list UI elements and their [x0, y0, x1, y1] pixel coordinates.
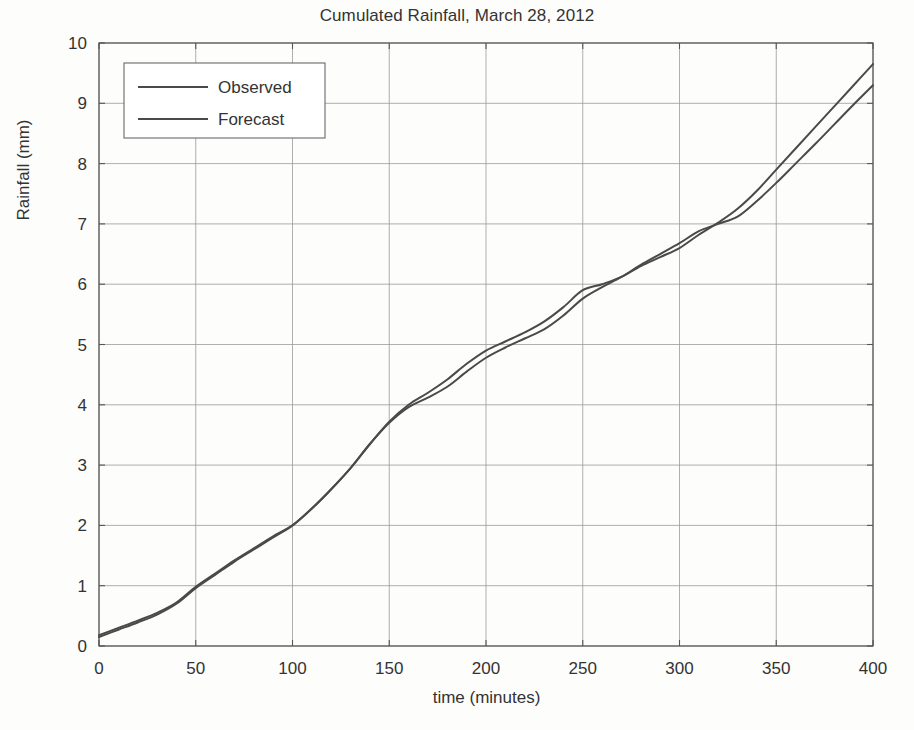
y-tick-label: 7 [78, 215, 87, 234]
x-tick-label: 300 [665, 659, 693, 678]
x-tick-label: 150 [375, 659, 403, 678]
chart-figure: Cumulated Rainfall, March 28, 2012 Rainf… [0, 0, 914, 730]
y-tick-label: 3 [78, 456, 87, 475]
legend[interactable]: ObservedForecast [124, 63, 325, 138]
y-tick-label: 6 [78, 275, 87, 294]
x-tick-label: 50 [186, 659, 205, 678]
y-tick-label: 5 [78, 336, 87, 355]
x-tick-label: 400 [859, 659, 887, 678]
y-tick-label: 4 [78, 396, 87, 415]
y-tick-label: 9 [78, 94, 87, 113]
y-tick-label: 1 [78, 577, 87, 596]
x-tick-label: 0 [94, 659, 103, 678]
y-tick-label: 10 [68, 34, 87, 53]
y-tick-label: 0 [78, 637, 87, 656]
x-tick-label: 100 [278, 659, 306, 678]
x-tick-label: 200 [472, 659, 500, 678]
y-tick-label: 8 [78, 155, 87, 174]
legend-label-observed[interactable]: Observed [218, 78, 292, 97]
x-tick-label: 350 [762, 659, 790, 678]
y-tick-label: 2 [78, 516, 87, 535]
plot-area: 050100150200250300350400012345678910 Obs… [0, 0, 914, 730]
x-tick-label: 250 [569, 659, 597, 678]
legend-label-forecast[interactable]: Forecast [218, 110, 284, 129]
